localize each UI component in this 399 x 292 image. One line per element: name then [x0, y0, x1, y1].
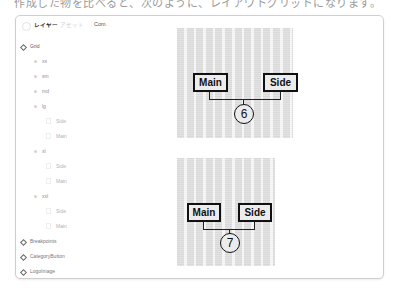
frame-icon: [46, 208, 51, 214]
layer-logoimage[interactable]: LogoImage: [20, 266, 55, 276]
layer-label: Side: [56, 118, 66, 124]
dot-icon: [34, 75, 37, 78]
layer-label: Main: [56, 133, 67, 139]
layer-categorybutton[interactable]: CategoryButton: [20, 251, 65, 261]
page-selector-ellipsis: ...: [106, 21, 111, 27]
layer-md[interactable]: md: [34, 86, 49, 96]
frame-icon: [46, 163, 51, 169]
frame-icon: [46, 223, 51, 229]
side-column-box: Side: [238, 203, 272, 222]
panel-header: レイヤー アセット Com...: [16, 16, 156, 36]
tab-layers[interactable]: レイヤー: [34, 21, 58, 29]
frame-icon: [46, 118, 51, 124]
component-icon: [20, 269, 25, 274]
connector-line: [209, 99, 281, 100]
layer-label: Side: [56, 163, 66, 169]
dot-icon: [34, 60, 37, 63]
side-column-box: Side: [263, 73, 298, 92]
layer-breakpoints[interactable]: Breakpoints: [20, 236, 56, 246]
layer-grid[interactable]: Grid: [20, 41, 39, 51]
layer-label: Breakpoints: [30, 238, 56, 244]
layer-label: md: [42, 88, 49, 94]
layer-lg[interactable]: lg: [34, 101, 46, 111]
tab-assets[interactable]: アセット: [60, 21, 84, 29]
layer-label: xxl: [42, 193, 48, 199]
layer-label: sm: [42, 73, 49, 79]
layer-xxl-side[interactable]: Side: [46, 206, 66, 216]
search-icon[interactable]: [22, 22, 31, 31]
component-icon: [20, 44, 25, 49]
column-count-badge: 6: [234, 104, 254, 124]
layer-lg-main[interactable]: Main: [46, 131, 67, 141]
layer-xs[interactable]: xs: [34, 56, 47, 66]
layer-xxl[interactable]: xxl: [34, 191, 48, 201]
layer-label: Main: [56, 178, 67, 184]
frame-icon: [46, 133, 51, 139]
main-column-box: Main: [187, 203, 221, 222]
layer-label: Grid: [30, 43, 39, 49]
component-icon: [20, 254, 25, 259]
layer-label: lg: [42, 103, 46, 109]
layer-xl-side[interactable]: Side: [46, 161, 66, 171]
cut-off-caption: 作成した物を比べると、次のように、レイアウトグリッドになります。: [14, 0, 381, 10]
layer-label: Side: [56, 208, 66, 214]
dot-icon: [34, 105, 37, 108]
frame-icon: [46, 178, 51, 184]
layer-xl[interactable]: xl: [34, 146, 46, 156]
page-selector-label: Com: [94, 21, 106, 27]
layer-sm[interactable]: sm: [34, 71, 49, 81]
dot-icon: [34, 150, 37, 153]
layer-xxl-main[interactable]: Main: [46, 221, 67, 231]
main-column-box: Main: [193, 73, 228, 92]
layer-label: CategoryButton: [30, 253, 65, 259]
column-count-badge: 7: [220, 233, 240, 253]
layer-xl-main[interactable]: Main: [46, 176, 67, 186]
page-selector[interactable]: Com...: [94, 21, 110, 27]
dot-icon: [34, 90, 37, 93]
component-icon: [20, 239, 25, 244]
layer-label: LogoImage: [30, 268, 55, 274]
layer-label: xs: [42, 58, 47, 64]
layer-label: Main: [56, 223, 67, 229]
layer-lg-side[interactable]: Side: [46, 116, 66, 126]
dot-icon: [34, 195, 37, 198]
layer-label: xl: [42, 148, 46, 154]
